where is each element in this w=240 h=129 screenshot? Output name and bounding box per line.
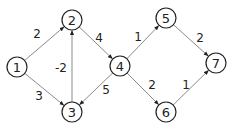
edge-6-to-7 [173, 70, 208, 105]
node-3: 3 [62, 102, 82, 122]
nodes-layer: 1234567 [7, 8, 226, 122]
edge-weight-label: 1 [134, 30, 142, 44]
node-label: 7 [212, 56, 220, 71]
edge-weight-label: 2 [33, 27, 41, 41]
node-label: 6 [162, 105, 170, 120]
node-label: 2 [68, 13, 76, 28]
node-label: 1 [13, 60, 21, 75]
node-7: 7 [206, 53, 226, 73]
edge-weight-label: 3 [35, 89, 43, 103]
edge-weight-label: 5 [102, 83, 110, 97]
edge-4-to-5 [127, 26, 159, 59]
edge-weight-label: -2 [55, 61, 67, 75]
node-4: 4 [110, 56, 130, 76]
edge-weight-label: 4 [95, 31, 103, 45]
directed-graph: 23-2451221 1234567 [0, 0, 240, 129]
edge-weight-label: 1 [182, 78, 190, 92]
edge-weight-label: 2 [148, 78, 156, 92]
edge-weight-label: 2 [196, 31, 204, 45]
node-label: 4 [116, 59, 124, 74]
node-6: 6 [156, 102, 176, 122]
edge-1-to-3 [25, 73, 64, 105]
node-label: 3 [68, 105, 76, 120]
edge-1-to-2 [25, 27, 64, 61]
node-label: 5 [162, 11, 170, 26]
node-1: 1 [7, 57, 27, 77]
node-2: 2 [62, 10, 82, 30]
node-5: 5 [156, 8, 176, 28]
